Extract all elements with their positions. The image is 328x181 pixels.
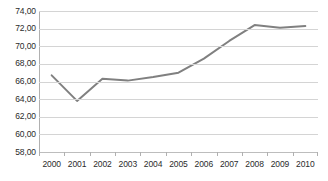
- x-axis-tick: [293, 152, 294, 156]
- x-axis-tick: [317, 152, 318, 156]
- x-axis-tick-label: 2008: [245, 160, 264, 169]
- x-axis-tick-label: 2005: [169, 160, 188, 169]
- x-axis-tick: [242, 152, 243, 156]
- gridline: [39, 82, 318, 83]
- x-axis-tick-label: 2002: [93, 160, 112, 169]
- gridline: [39, 29, 318, 30]
- x-axis-tick-label: 2010: [296, 160, 315, 169]
- x-axis-tick: [217, 152, 218, 156]
- line-chart: 74,0072,0070,0068,0066,0064,0062,0060,00…: [0, 0, 328, 181]
- x-axis-tick: [39, 152, 40, 156]
- y-axis-tick-label: 68,00: [2, 59, 36, 68]
- x-axis-tick: [267, 152, 268, 156]
- x-axis-tick-label: 2007: [220, 160, 239, 169]
- x-axis-ticks: [39, 152, 318, 156]
- gridline: [39, 134, 318, 135]
- y-axis-tick-label: 60,00: [2, 130, 36, 139]
- x-axis-tick-label: 2006: [195, 160, 214, 169]
- x-axis-tick: [140, 152, 141, 156]
- plot-area: [39, 11, 318, 152]
- x-axis-tick: [191, 152, 192, 156]
- gridline: [39, 117, 318, 118]
- y-axis-tick-labels: 74,0072,0070,0068,0066,0064,0062,0060,00…: [0, 0, 36, 181]
- x-axis-tick: [64, 152, 65, 156]
- x-axis-tick-label: 2009: [271, 160, 290, 169]
- y-axis-tick-label: 58,00: [2, 148, 36, 157]
- x-axis-tick-label: 2003: [119, 160, 138, 169]
- gridline: [39, 11, 318, 12]
- x-axis-tick: [115, 152, 116, 156]
- x-axis-tick-label: 2001: [68, 160, 87, 169]
- x-axis-tick-label: 2004: [144, 160, 163, 169]
- y-axis-tick-label: 70,00: [2, 42, 36, 51]
- x-axis-tick: [166, 152, 167, 156]
- y-axis-tick-label: 66,00: [2, 77, 36, 86]
- y-axis-tick-label: 62,00: [2, 112, 36, 121]
- gridline: [39, 64, 318, 65]
- y-axis-tick-label: 72,00: [2, 24, 36, 33]
- y-axis-tick-label: 74,00: [2, 7, 36, 16]
- gridline: [39, 99, 318, 100]
- x-axis-tick: [90, 152, 91, 156]
- y-axis-tick-label: 64,00: [2, 95, 36, 104]
- x-axis-tick-label: 2000: [42, 160, 61, 169]
- gridline: [39, 46, 318, 47]
